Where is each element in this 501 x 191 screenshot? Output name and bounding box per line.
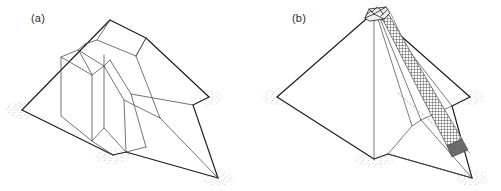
pyramid-body-a [22,20,209,155]
figure-board: (a) [0,0,501,191]
panel-b: (b) [256,7,498,191]
pyramid-diagram-svg: (a) [0,0,501,191]
panel-b-label: (b) [292,12,306,24]
panel-a: (a) [0,12,244,191]
pyramid-body-b [277,12,470,159]
panel-a-label: (a) [31,12,45,24]
